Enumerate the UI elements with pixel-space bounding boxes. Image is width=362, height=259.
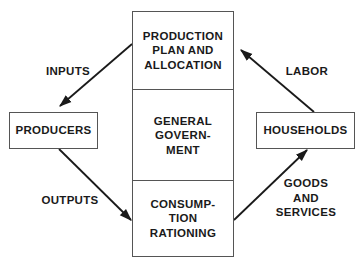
consumption-rationing-section: CONSUMP- TION RATIONING bbox=[133, 180, 233, 256]
producers-label: PRODUCERS bbox=[15, 123, 91, 138]
production-plan-section: PRODUCTION PLAN AND ALLOCATION bbox=[133, 12, 233, 89]
general-government-section: GENERAL GOVERN- MENT bbox=[133, 89, 233, 181]
production-plan-label: PRODUCTION PLAN AND ALLOCATION bbox=[143, 29, 223, 73]
outputs-edge-label: OUTPUTS bbox=[38, 193, 102, 208]
labor-edge-label: LABOR bbox=[282, 64, 332, 79]
labor-arrow bbox=[241, 50, 314, 112]
inputs-edge-label: INPUTS bbox=[38, 64, 98, 79]
cropped-title-remnant bbox=[60, 0, 310, 4]
economic-flow-diagram: PRODUCTION PLAN AND ALLOCATION GENERAL G… bbox=[0, 0, 362, 259]
central-planning-box: PRODUCTION PLAN AND ALLOCATION GENERAL G… bbox=[132, 11, 234, 257]
outputs-arrow bbox=[59, 149, 131, 220]
consumption-rationing-label: CONSUMP- TION RATIONING bbox=[150, 197, 216, 241]
goods-services-edge-label: GOODS AND SERVICES bbox=[268, 176, 344, 220]
households-label: HOUSEHOLDS bbox=[263, 123, 347, 138]
households-node: HOUSEHOLDS bbox=[256, 112, 355, 149]
general-government-label: GENERAL GOVERN- MENT bbox=[154, 114, 212, 158]
producers-node: PRODUCERS bbox=[9, 112, 98, 149]
